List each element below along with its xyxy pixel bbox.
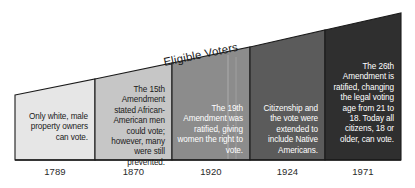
year-label-1920: 1920 [172,166,250,178]
eligible-voters-chart: Eligible Voters Only white, male propert… [0,0,415,188]
year-label-1870: 1870 [95,166,172,178]
band-text-1924: Citizenship and the vote were extended t… [252,104,323,158]
band-text-1920: The 19th Amendment was ratified, giving … [174,104,248,158]
year-label-1789: 1789 [15,166,95,178]
band-text-1870: The 15th Amendment stated African-Americ… [97,85,170,158]
year-label-1924: 1924 [250,166,325,178]
year-label-1971: 1971 [325,166,401,178]
band-text-1789: Only white, male property owners can vot… [17,112,93,158]
band-text-1971: The 26th Amendment is ratified, changing… [327,62,399,158]
